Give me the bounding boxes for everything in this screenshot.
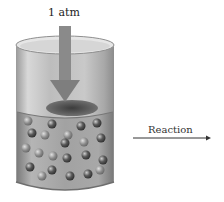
diagram-canvas [0,0,224,202]
reaction-label: Reaction [148,124,193,135]
pressure-label: 1 atm [48,6,80,19]
reaction-arrow [133,136,211,141]
